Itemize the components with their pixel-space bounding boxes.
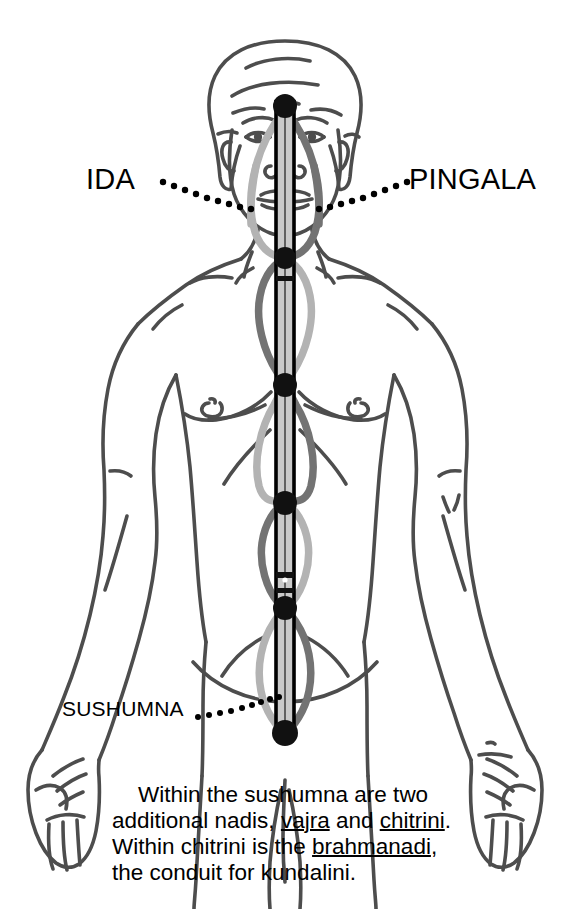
caption-line-2: additional nadis, vajra and chitrini. [112,808,472,834]
chakra-sacral [273,596,297,620]
finger-left-2 [63,822,67,870]
shoulder-right [329,259,432,324]
finger-right-1 [517,824,521,869]
finger-left-3 [77,820,80,865]
sushumna-border-left [274,100,278,738]
term-chitrini: chitrini [380,808,445,833]
torso-side-left [176,375,206,642]
hairline-strand-1 [246,59,310,68]
chakra-crown [273,94,297,118]
pelvis-right [364,642,368,776]
sushumna-border-right [292,100,296,738]
pelvis-left [202,642,206,776]
caption-line-3b: , [431,834,437,859]
sushumna-node-sacral [276,572,294,578]
chitrini-line [284,100,286,738]
nipple-left-dot [210,399,215,403]
elbow-crease-left [110,471,131,476]
hairline-strand-5 [311,109,341,115]
pupil-left [254,133,262,141]
label-ida: IDA [86,163,135,196]
tendon-right-2 [484,774,513,791]
nadi-illustration [0,0,577,909]
diagram-canvas: IDA PINGALA SUSHUMNA Within the sushumna… [0,0,577,909]
nipple-left [202,403,222,417]
hairline-strand-3 [233,108,264,113]
elbow-crease-right [439,471,460,476]
caption-block: Within the sushumna are two additional n… [112,782,472,886]
caption-line-3a: Within chitrini is the [112,834,312,859]
finger-left-1 [49,824,53,869]
chakra-solar-plexus [273,491,297,515]
eyebrow-right [296,118,327,123]
chakra-throat [274,247,296,269]
caption-line-1: Within the sushumna are two [112,782,472,808]
wrist-dot-right [487,742,495,744]
hairline-strand-7 [345,134,359,137]
shoulder-left [138,259,241,324]
sushumna-channel [274,100,296,738]
ida-leader-dots [160,179,254,212]
finger-right-3 [490,820,493,865]
chakra-root [272,720,298,746]
label-pingala: PINGALA [409,163,536,196]
caption-line-3: Within chitrini is the brahmanadi, [112,834,472,860]
pupil-right [308,133,316,141]
eyebrow-left [243,118,274,123]
caption-line-4: the conduit for kundalini. [112,860,472,886]
sushumna-node-sacral-2 [276,588,294,593]
label-sushumna: SUSHUMNA [62,697,184,721]
caption-line-2c: . [445,808,451,833]
nipple-right [348,403,368,417]
term-brahmanadi: brahmanadi [312,834,431,859]
term-vajra: vajra [281,808,330,833]
finger-right-2 [503,822,507,870]
tendon-right-1 [487,759,517,776]
sushumna-node-throat [276,276,294,281]
wrist-mark-right [479,754,511,757]
sushumna-node-dot [282,577,287,582]
tendon-left-2 [57,774,86,791]
caption-line-2b: and [330,808,380,833]
pingala-leader-dots [316,179,410,212]
caption-line-2a: additional nadis, [112,808,281,833]
hairline-strand-2 [232,82,318,96]
chakra-heart [273,373,297,397]
tendon-left-1 [53,759,83,776]
elbow-mark-right-a [443,497,449,512]
elbow-mark-right-b [454,495,459,510]
forearm-line-right [443,516,465,590]
hairline-strand-6 [218,132,237,134]
torso-side-right [364,375,394,642]
forearm-line-left [105,516,127,590]
nipple-right-dot [355,399,360,403]
